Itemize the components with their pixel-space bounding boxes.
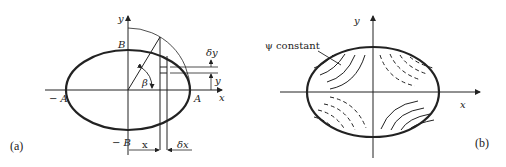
streamlines-lower-right-solid — [381, 101, 434, 130]
x-axis-label: x — [219, 92, 225, 103]
y-axis-label: y — [117, 13, 124, 24]
delta-y-label: δy — [206, 47, 218, 58]
panel-a: y x B − B A − A β δy y x δx (a) — [10, 13, 225, 155]
B-label: B — [117, 39, 125, 50]
delta-x-label: δx — [177, 139, 189, 150]
y-dim-label: y — [214, 75, 221, 86]
neg-A-label: − A — [49, 93, 68, 104]
x-axis-label: x — [460, 99, 466, 110]
A-label: A — [193, 93, 201, 104]
beta-label: β — [141, 77, 148, 88]
panel-a-tag: (a) — [10, 139, 23, 153]
neg-B-label: − B — [112, 137, 131, 148]
diagram-canvas: y x B − B A − A β δy y x δx (a) — [0, 0, 506, 167]
auxiliary-circle-arc — [128, 28, 190, 90]
panel-b-tag: (b) — [475, 136, 489, 150]
streamlines-upper-left-solid — [314, 54, 365, 89]
psi-constant-label: ψ constant — [265, 40, 320, 51]
streamlines-lower-left-dashed — [314, 97, 366, 130]
panel-b: y x ψ constant (b) — [265, 15, 489, 158]
x-dim-label: x — [142, 139, 148, 150]
y-axis-label: y — [353, 15, 360, 26]
streamlines-upper-right-dashed — [380, 54, 433, 86]
